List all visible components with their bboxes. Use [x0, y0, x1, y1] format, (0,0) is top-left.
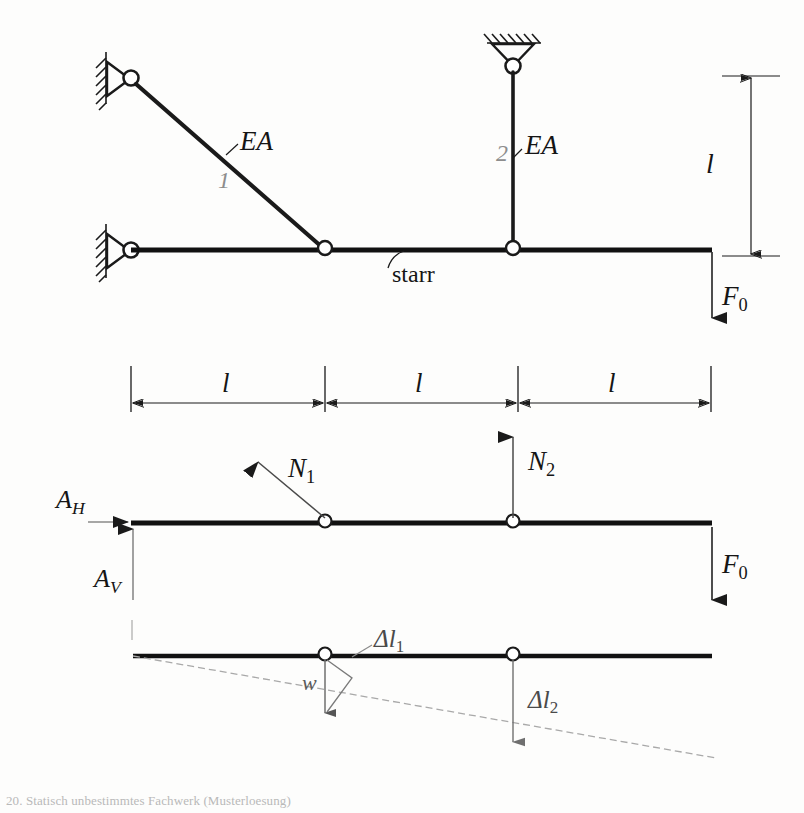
label-elongation-dl2: Δl2: [528, 687, 558, 716]
fbd-joint-1: [319, 515, 332, 528]
pin-support-top-left: [107, 62, 139, 96]
ceiling-hatch-top: [484, 34, 541, 43]
truss-bar-1: [136, 84, 323, 248]
joint-bar2-beam: [506, 241, 520, 255]
label-displacement-w: w: [302, 672, 317, 694]
label-load-F0-top: F0: [722, 283, 748, 314]
fbd-group: [88, 437, 712, 600]
elongation-triangle-dl1: [327, 660, 352, 712]
label-force-N1: N1: [288, 455, 315, 486]
label-load-F0-top-subscript: 0: [739, 295, 748, 315]
label-bar2-number: 2: [496, 141, 508, 165]
label-dim-span-1: l: [222, 370, 230, 397]
page-caption: 20. Statisch unbestimmtes Fachwerk (Must…: [6, 793, 291, 811]
rotated-position-line: [133, 656, 716, 758]
label-dim-span-3: l: [608, 370, 616, 397]
label-reaction-AV-symbol: A: [94, 564, 110, 593]
top-structure-group: [96, 34, 780, 318]
disp-joint-1: [319, 648, 332, 661]
disp-joint-2: [507, 648, 520, 661]
label-load-F0-fbd-symbol: F: [722, 549, 739, 579]
pin-support-ceiling: [492, 44, 534, 74]
label-force-N1-subscript: 1: [306, 467, 315, 487]
joint-bar1-beam: [318, 241, 332, 255]
label-bar1-stiffness: EA: [240, 128, 273, 155]
label-elongation-dl2-symbol: Δl: [528, 686, 550, 713]
displacement-group: [132, 620, 716, 758]
label-force-N2-symbol: N: [528, 446, 546, 476]
label-reaction-AH: AH: [56, 487, 85, 517]
label-dim-span-2: l: [415, 370, 423, 397]
label-rigid-beam: starr: [392, 262, 435, 286]
label-elongation-dl1-symbol: Δl: [374, 625, 396, 652]
wall-hatch-bottom-left: [96, 224, 106, 282]
label-load-F0-fbd-subscript: 0: [739, 563, 748, 583]
label-elongation-dl1-subscript: 1: [396, 637, 405, 656]
label-elongation-dl2-subscript: 2: [550, 698, 559, 717]
label-force-N2: N2: [528, 448, 555, 479]
label-load-F0-fbd: F0: [722, 551, 748, 582]
label-reaction-AH-subscript: H: [72, 498, 85, 518]
label-force-N2-subscript: 2: [546, 460, 555, 480]
label-bar2-stiffness: EA: [525, 132, 558, 159]
engineering-figure-svg: [0, 0, 804, 813]
label-reaction-AH-symbol: A: [56, 485, 72, 514]
figure-sheet: EA 1 EA 2 starr l F0 l l l AH AV N1 N2 F…: [0, 0, 804, 813]
leader-ea-bar1: [226, 144, 238, 155]
label-reaction-AV: AV: [94, 566, 121, 596]
wall-hatch-top-left: [96, 52, 106, 110]
label-reaction-AV-subscript: V: [110, 577, 121, 597]
label-bar1-number: 1: [218, 168, 230, 192]
label-elongation-dl1: Δl1: [374, 626, 404, 655]
label-force-N1-symbol: N: [288, 453, 306, 483]
label-height-dimension: l: [706, 150, 714, 178]
label-load-F0-top-symbol: F: [722, 281, 739, 311]
